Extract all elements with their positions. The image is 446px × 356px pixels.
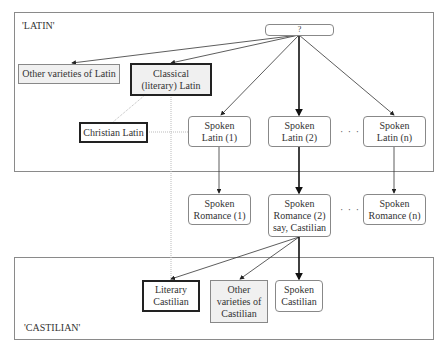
spoken-latin-2-label: Spoken Latin (2)	[273, 120, 326, 144]
christian-latin-node: Christian Latin	[79, 122, 148, 143]
other-varieties-latin-label: Other varieties of Latin	[22, 68, 116, 80]
spoken-latin-1-label: Spoken Latin (1)	[193, 120, 246, 144]
literary-castilian-node: Literary Castilian	[142, 280, 200, 312]
latin-row-ellipsis: · · ·	[340, 126, 360, 137]
christian-latin-label: Christian Latin	[83, 127, 143, 139]
root-unknown-node: ?	[265, 24, 334, 36]
spoken-latin-1-node: Spoken Latin (1)	[188, 116, 251, 147]
spoken-romance-1-label: Spoken Romance (1)	[191, 198, 248, 222]
spoken-castilian-node: Spoken Castilian	[275, 280, 323, 312]
spoken-latin-n-node: Spoken Latin (n)	[363, 116, 426, 147]
spoken-romance-1-node: Spoken Romance (1)	[188, 194, 251, 225]
literary-castilian-label: Literary Castilian	[148, 284, 194, 308]
romance-row-ellipsis: · · ·	[340, 204, 360, 215]
spoken-castilian-label: Spoken Castilian	[279, 284, 319, 308]
spoken-romance-n-label: Spoken Romance (n)	[366, 198, 423, 222]
other-varieties-latin-node: Other varieties of Latin	[18, 64, 120, 84]
classical-latin-node: Classical (literary) Latin	[130, 63, 212, 96]
other-varieties-castilian-node: Other varieties of Castilian	[210, 280, 268, 323]
root-unknown-label: ?	[298, 25, 302, 35]
classical-latin-label: Classical (literary) Latin	[135, 68, 207, 92]
spoken-latin-2-node: Spoken Latin (2)	[268, 116, 331, 147]
other-varieties-castilian-label: Other varieties of Castilian	[214, 284, 264, 320]
spoken-romance-2-node: Spoken Romance (2) say, Castilian	[268, 194, 331, 237]
spoken-romance-n-node: Spoken Romance (n)	[363, 194, 426, 225]
spoken-romance-2-label: Spoken Romance (2) say, Castilian	[272, 198, 327, 234]
spoken-latin-n-label: Spoken Latin (n)	[368, 120, 421, 144]
